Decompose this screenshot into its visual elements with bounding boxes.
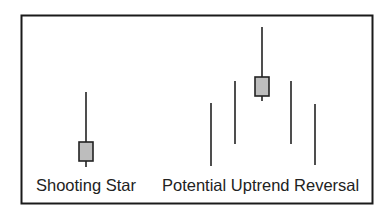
shooting-star-label: Shooting Star (36, 176, 136, 195)
shooting-star-body (79, 142, 93, 161)
uptrend-reversal-label: Potential Uptrend Reversal (162, 176, 359, 195)
reversal-candle-body (255, 77, 269, 96)
